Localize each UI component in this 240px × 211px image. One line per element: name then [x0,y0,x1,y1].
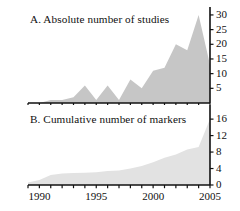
panel-b-y-tick-label: 0 [216,178,222,190]
panel-b-area [28,119,210,185]
figure-container: A. Absolute number of studies 3025201510… [0,0,240,211]
x-axis-tick-labels: 1990199520002005 [0,190,240,208]
panel-a-area [28,15,210,103]
panel-b-y-tick-label: 8 [216,145,222,157]
panel-a-y-tick-label: 20 [216,37,227,49]
panel-a-y-tick-label: 10 [216,67,227,79]
panel-b-y-tick-label: 4 [216,162,222,174]
panel-a-y-tick-label: 15 [216,52,227,64]
panel-b-title: B. Cumulative number of markers [30,113,186,125]
panel-a-y-tick-label: 25 [216,23,227,35]
panel-b-y-tick-label: 16 [216,112,227,124]
x-tick-label-2000: 2000 [137,190,169,202]
x-tick-label-1990: 1990 [23,190,55,202]
panel-a-y-tick-label: 30 [216,8,227,20]
x-tick-label-2005: 2005 [194,190,226,202]
panel-a-title: A. Absolute number of studies [30,13,169,25]
x-tick-label-1995: 1995 [80,190,112,202]
panel-b-y-tick-label: 12 [216,129,227,141]
panel-a-y-tick-label: 5 [216,81,222,93]
panel-a: A. Absolute number of studies 3025201510… [0,0,240,105]
